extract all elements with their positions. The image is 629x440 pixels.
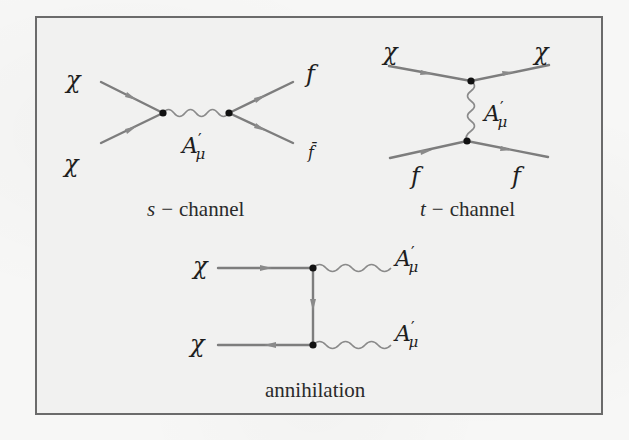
feynman-diagram-figure: χ χ f f̄ A′μ s−channel χ χ f f A′μ t−cha… — [0, 0, 629, 440]
ann-vertex-top-dot — [309, 264, 316, 271]
s-label-f-top: f — [304, 60, 319, 88]
ann-label-mediator-top: A′μ — [393, 243, 418, 276]
ann-top-arrow-icon — [260, 265, 272, 271]
t-vertex-top-dot — [467, 77, 474, 84]
ann-label-chi-top: χ — [191, 252, 209, 280]
annihilation-diagram: χ χ A′μ A′μ annihilation — [188, 243, 418, 402]
ann-vertical-arrow-icon — [310, 299, 316, 311]
t-label-f-bottom-left: f — [409, 162, 424, 190]
t-label-chi-top-left: χ — [381, 38, 399, 66]
s-label-mediator: A′μ — [180, 130, 205, 163]
s-outgoing-bottom-arrow-icon — [254, 123, 266, 131]
s-label-chi-bottom: χ — [62, 150, 80, 178]
s-incoming-top-arrow-icon — [125, 92, 137, 100]
t-channel-diagram: χ χ f f A′μ t−channel — [381, 38, 550, 221]
ann-vertex-bottom-dot — [309, 341, 316, 348]
t-mediator-wavy-line — [466, 81, 474, 141]
ann-bottom-wavy-line — [313, 342, 391, 349]
s-vertex-left-dot — [159, 109, 166, 116]
t-label-f-bottom-right: f — [510, 162, 525, 190]
t-bottom-left-arrow-icon — [420, 150, 432, 155]
s-channel-caption: s−channel — [147, 197, 244, 221]
ann-label-chi-bottom: χ — [188, 330, 206, 358]
ann-label-mediator-bottom: A′μ — [393, 318, 418, 351]
t-label-chi-top-right: χ — [532, 38, 550, 66]
s-label-fbar-bottom: f̄ — [307, 141, 317, 162]
s-vertex-right-dot — [225, 109, 232, 116]
page: χ χ f f̄ A′μ s−channel χ χ f f A′μ t−cha… — [0, 0, 629, 440]
t-label-mediator: A′μ — [482, 98, 507, 131]
t-vertex-bottom-dot — [463, 137, 470, 144]
s-channel-diagram: χ χ f f̄ A′μ s−channel — [62, 60, 319, 221]
s-mediator-wavy-line — [163, 110, 229, 117]
annihilation-caption: annihilation — [265, 378, 366, 402]
t-channel-caption: t−channel — [420, 197, 515, 221]
ann-bottom-arrow-icon — [264, 342, 276, 348]
s-outgoing-top-arrow-icon — [254, 95, 266, 103]
s-label-chi-top: χ — [64, 66, 82, 94]
ann-top-wavy-line — [313, 265, 391, 272]
